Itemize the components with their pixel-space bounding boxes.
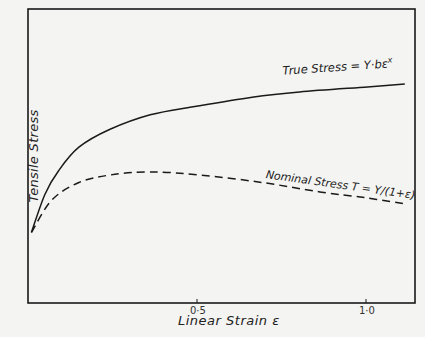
y-axis-title: Tensile Stress [26, 113, 41, 203]
true-stress-curve [31, 84, 404, 232]
x-tick-label-0.5: 0·5 [190, 305, 206, 316]
chart-figure: Tensile Stress Linear Strain ε 0·5 1·0 T… [0, 0, 425, 337]
true-stress-exponent: x [387, 55, 392, 64]
x-tick-label-1.0: 1·0 [359, 305, 375, 316]
plot-area [0, 0, 425, 337]
chart-frame [28, 9, 415, 303]
